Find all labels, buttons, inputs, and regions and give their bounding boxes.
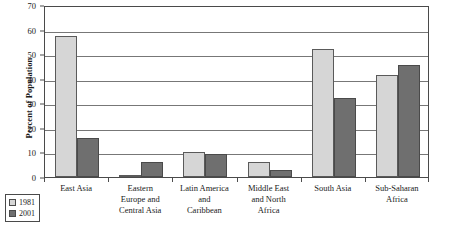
y-tick-label: 50 bbox=[28, 51, 37, 60]
y-tick-label: 40 bbox=[28, 75, 37, 84]
y-axis-tick-labels: 010203040506070 bbox=[16, 6, 40, 178]
category-label-line: Middle East bbox=[237, 183, 301, 194]
category-label-line: Europe and bbox=[108, 194, 172, 205]
category-label-line: and bbox=[172, 194, 236, 205]
bar-2001 bbox=[270, 170, 292, 177]
bar-2001 bbox=[334, 98, 356, 177]
y-tick-label: 70 bbox=[28, 2, 37, 11]
y-tick-label: 20 bbox=[28, 125, 37, 134]
category-label: Middle Eastand NorthAfrica bbox=[237, 183, 301, 216]
category-label-line: Africa bbox=[237, 205, 301, 216]
bar-2001 bbox=[77, 138, 99, 177]
bar-2001 bbox=[205, 154, 227, 177]
y-tick-label: 30 bbox=[28, 100, 37, 109]
bar-1981 bbox=[183, 152, 205, 177]
category-label: Sub-SaharanAfrica bbox=[365, 183, 429, 205]
category-label-line: Central Asia bbox=[108, 205, 172, 216]
category-label: South Asia bbox=[301, 183, 365, 194]
bar-group bbox=[45, 7, 109, 177]
category-label-line: East Asia bbox=[44, 183, 108, 194]
x-axis-category-labels: East AsiaEasternEurope andCentral AsiaLa… bbox=[44, 183, 429, 231]
x-tick-mark bbox=[108, 178, 109, 182]
legend-item-2001: 2001 bbox=[9, 208, 35, 219]
category-label-line: Eastern bbox=[108, 183, 172, 194]
bar-1981 bbox=[248, 162, 270, 177]
x-tick-mark bbox=[172, 178, 173, 182]
legend-item-1981: 1981 bbox=[9, 197, 35, 208]
x-tick-mark bbox=[237, 178, 238, 182]
plot-area bbox=[44, 6, 429, 178]
y-tick-label: 0 bbox=[32, 174, 36, 183]
legend-label-2001: 2001 bbox=[19, 210, 35, 218]
bar-1981 bbox=[312, 49, 334, 177]
bar-1981 bbox=[376, 75, 398, 177]
x-tick-mark bbox=[428, 178, 429, 182]
bar-group bbox=[173, 7, 237, 177]
bar-2001 bbox=[398, 65, 420, 177]
y-tick-label: 60 bbox=[28, 26, 37, 35]
chart-legend: 1981 2001 bbox=[5, 194, 40, 222]
category-label-line: South Asia bbox=[301, 183, 365, 194]
bar-group bbox=[109, 7, 173, 177]
category-label: Latin AmericaandCaribbean bbox=[172, 183, 236, 216]
x-tick-mark bbox=[301, 178, 302, 182]
x-tick-mark bbox=[44, 178, 45, 182]
bar-2001 bbox=[141, 162, 163, 177]
bar-group bbox=[302, 7, 366, 177]
category-label-line: Africa bbox=[365, 194, 429, 205]
bar-group bbox=[238, 7, 302, 177]
category-label: EasternEurope andCentral Asia bbox=[108, 183, 172, 216]
bar-chart-figure: Percent of Population 010203040506070 Ea… bbox=[0, 0, 449, 233]
category-label-line: Caribbean bbox=[172, 205, 236, 216]
category-label-line: Sub-Saharan bbox=[365, 183, 429, 194]
category-label-line: Latin America bbox=[172, 183, 236, 194]
y-tick-label: 10 bbox=[28, 149, 37, 158]
bar-1981 bbox=[119, 175, 141, 177]
bar-1981 bbox=[55, 36, 77, 177]
category-label-line: and North bbox=[237, 194, 301, 205]
legend-swatch-2001-icon bbox=[9, 210, 16, 217]
legend-label-1981: 1981 bbox=[19, 199, 35, 207]
category-label: East Asia bbox=[44, 183, 108, 194]
legend-swatch-1981-icon bbox=[9, 199, 16, 206]
bar-series-container bbox=[45, 7, 428, 177]
bar-group bbox=[366, 7, 430, 177]
x-tick-mark bbox=[365, 178, 366, 182]
